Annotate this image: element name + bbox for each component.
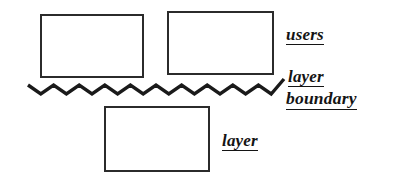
label-users: users	[286, 26, 324, 45]
label-layer-boundary-line-1: layer	[288, 68, 324, 87]
user-box-right	[167, 11, 274, 75]
user-box-left	[40, 14, 144, 78]
label-layer: layer	[222, 132, 258, 151]
label-layer-boundary-line-2: boundary	[286, 90, 357, 110]
diagram-canvas: users layer boundary layer	[0, 0, 397, 179]
layer-box	[104, 106, 210, 172]
